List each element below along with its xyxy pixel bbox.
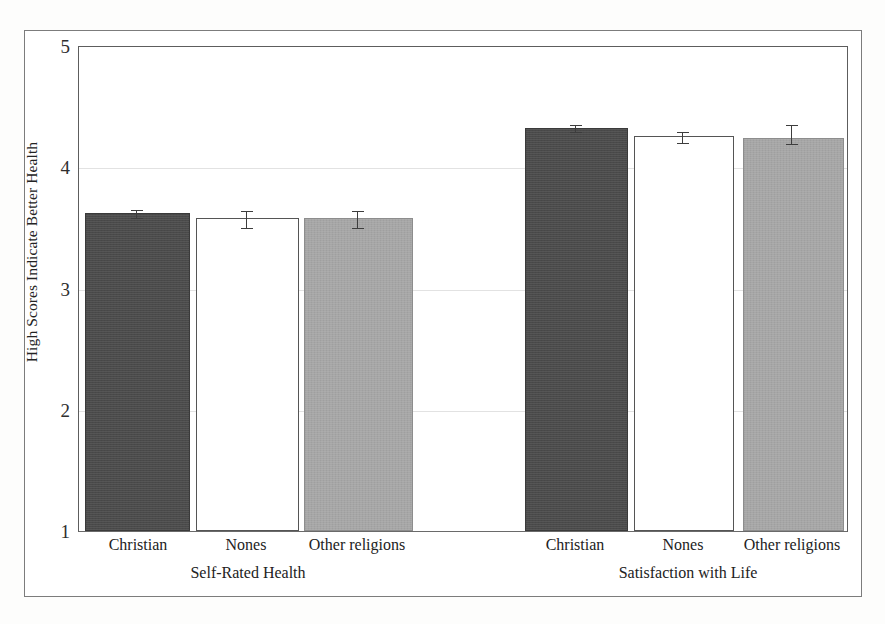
- errorbar-cap-top: [677, 132, 689, 133]
- figure-canvas: 5 4 3 2 1 High Scores Indicate Better He…: [0, 0, 885, 624]
- x-label-srh-other-religions: Other religions: [267, 536, 447, 554]
- errorbar-srh-christian: [136, 210, 137, 219]
- bar-swl-other-religions[interactable]: [743, 138, 844, 531]
- errorbar-swl-nones: [682, 132, 683, 144]
- errorbar-cap-bottom: [786, 144, 798, 145]
- plot-area: [78, 46, 848, 532]
- group-label-self-rated-health: Self-Rated Health: [148, 564, 348, 582]
- errorbar-cap-bottom: [131, 218, 143, 219]
- bar-srh-nones[interactable]: [196, 218, 299, 531]
- errorbar-cap-bottom: [570, 132, 582, 133]
- errorbar-cap-top: [352, 211, 364, 212]
- errorbar-swl-christian: [575, 125, 576, 133]
- errorbar-cap-bottom: [352, 228, 364, 229]
- errorbar-srh-other-religions: [357, 211, 358, 229]
- group-label-satisfaction-with-life: Satisfaction with Life: [578, 564, 798, 582]
- errorbar-cap-bottom: [677, 143, 689, 144]
- errorbar-swl-other-religions: [791, 125, 792, 145]
- bar-swl-christian[interactable]: [525, 128, 628, 531]
- errorbar-cap-top: [241, 211, 253, 212]
- errorbar-cap-top: [570, 125, 582, 126]
- errorbar-cap-top: [131, 210, 143, 211]
- errorbar-cap-top: [786, 125, 798, 126]
- x-label-swl-other-religions: Other religions: [702, 536, 882, 554]
- errorbar-srh-nones: [246, 211, 247, 229]
- errorbar-cap-bottom: [241, 228, 253, 229]
- bar-srh-christian[interactable]: [85, 213, 190, 531]
- bar-swl-nones[interactable]: [634, 136, 734, 531]
- y-axis-title: High Scores Indicate Better Health: [23, 52, 41, 452]
- bar-srh-other-religions[interactable]: [304, 218, 413, 531]
